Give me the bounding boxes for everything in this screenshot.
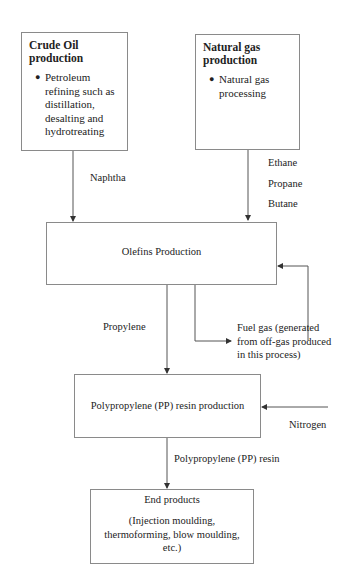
fuel-gas-label: Fuel gas (generated from off-gas produce… xyxy=(237,321,331,362)
pp-resin-label: Polypropylene (PP) resin xyxy=(174,452,280,465)
pp-resin-production-box: Polypropylene (PP) resin production xyxy=(74,374,261,438)
natural-gas-production-box: Natural gas production ● Natural gas pro… xyxy=(195,34,300,150)
fuel-gas-output-arrow xyxy=(195,284,231,341)
naphtha-label: Naphtha xyxy=(90,171,126,184)
propylene-label: Propylene xyxy=(103,320,146,333)
propane-label: Propane xyxy=(268,177,302,190)
nitrogen-label: Nitrogen xyxy=(289,418,326,431)
pp-production-label: Polypropylene (PP) resin production xyxy=(75,400,260,411)
olefins-production-box: Olefins Production xyxy=(46,222,277,285)
natural-gas-title: Natural gas production xyxy=(203,41,293,67)
ethane-label: Ethane xyxy=(268,156,297,169)
butane-label: Butane xyxy=(268,197,298,210)
end-products-detail: (Injection moulding, thermoforming, blow… xyxy=(91,514,253,555)
crude-oil-production-box: Crude Oil production ● Petroleum refinin… xyxy=(21,32,128,151)
bullet-icon: ● xyxy=(209,73,219,100)
crude-oil-title: Crude Oil production xyxy=(29,39,121,65)
natural-gas-bullet: ● Natural gas processing xyxy=(209,73,293,100)
olefins-label: Olefins Production xyxy=(47,246,276,257)
bullet-icon: ● xyxy=(35,71,45,139)
end-products-title: End products xyxy=(91,494,253,505)
crude-oil-bullet: ● Petroleum refining such as distillatio… xyxy=(35,71,121,139)
end-products-box: End products (Injection moulding, thermo… xyxy=(90,489,254,564)
